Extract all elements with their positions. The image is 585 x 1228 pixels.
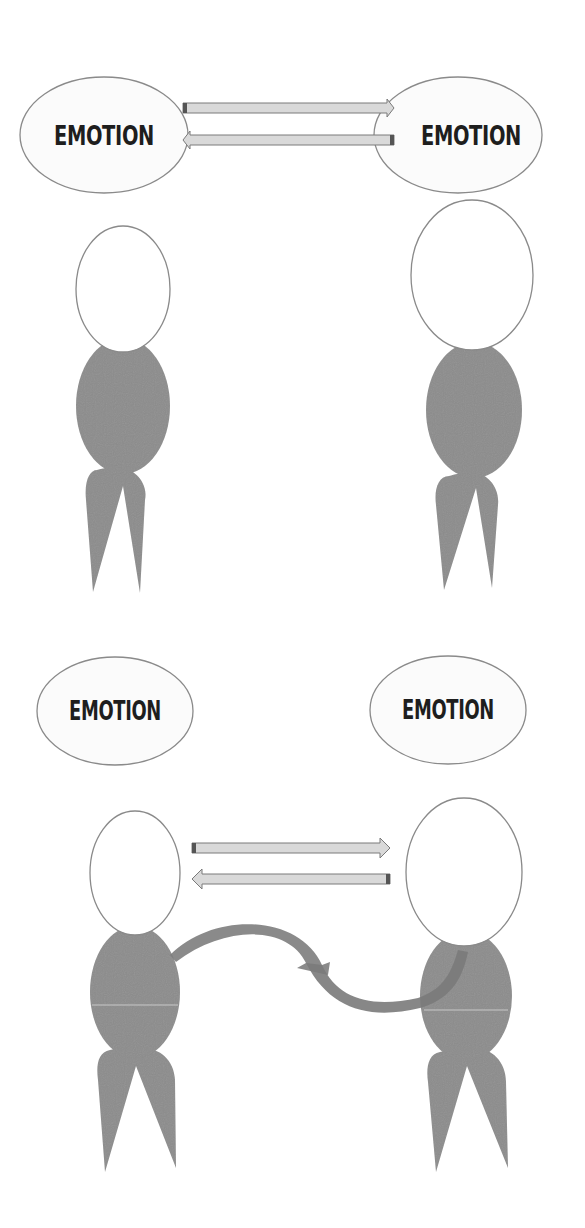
- arrow-right-icon: [192, 838, 390, 858]
- arrow-left-icon: [183, 131, 394, 149]
- arrow-right-icon: [183, 99, 394, 117]
- person-figure-top-right: [411, 200, 533, 590]
- curved-arrow-icon: [170, 924, 468, 1012]
- emotion-bubble-bottom-right: EMOTION: [370, 656, 526, 764]
- emotion-bubble-bottom-left: EMOTION: [37, 657, 193, 765]
- emotion-label: EMOTION: [54, 120, 154, 151]
- person-figure-bottom-right: [406, 798, 522, 1172]
- arrow-left-icon: [192, 869, 390, 889]
- emotion-label: EMOTION: [421, 120, 521, 151]
- emotion-label: EMOTION: [402, 694, 494, 725]
- emotion-bubble-top-left: EMOTION: [20, 77, 188, 193]
- bottom-panel: EMOTION EMOTION: [37, 656, 526, 1172]
- person-figure-top-left: [76, 226, 170, 593]
- person-figure-bottom-left: [90, 811, 180, 1172]
- emotion-bubble-top-right: EMOTION: [374, 77, 542, 193]
- top-panel: EMOTION EMOTION: [20, 77, 542, 593]
- diagram-canvas: EMOTION EMOTION: [0, 0, 585, 1228]
- emotion-label: EMOTION: [69, 695, 161, 726]
